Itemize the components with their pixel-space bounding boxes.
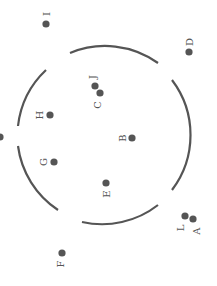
point-marker xyxy=(0,133,4,140)
point-marker xyxy=(128,134,135,141)
point-label: H xyxy=(34,110,45,119)
point-label: I xyxy=(41,12,52,16)
point-marker xyxy=(58,249,65,256)
point-label: D xyxy=(184,38,195,46)
point-label: G xyxy=(38,158,49,166)
point-F: F xyxy=(55,249,66,267)
point-label: L xyxy=(175,224,186,231)
point-marker xyxy=(102,179,109,186)
circle-arc-lower-left xyxy=(18,146,58,210)
point-A: A xyxy=(189,215,201,235)
point-circle-diagram: ABCDEFGHIJL xyxy=(0,0,217,286)
point-marker xyxy=(42,20,49,27)
point-label: F xyxy=(55,260,66,267)
point-label: B xyxy=(117,134,128,141)
point-marker xyxy=(189,215,196,222)
labeled-points: ABCDEFGHIJL xyxy=(0,12,202,268)
point-C: C xyxy=(92,89,104,108)
point-marker xyxy=(46,111,53,118)
point-marker xyxy=(50,158,57,165)
point-E: E xyxy=(101,179,112,197)
point-J: J xyxy=(87,75,99,90)
point-G: G xyxy=(38,158,58,166)
point-D: D xyxy=(184,38,195,56)
circle-arc-top xyxy=(70,46,158,63)
point-B: B xyxy=(117,134,136,141)
point-label: J xyxy=(87,75,98,80)
point-unlabeled xyxy=(0,133,4,140)
point-I: I xyxy=(41,12,52,28)
circle-arc-bottom xyxy=(82,205,158,224)
point-marker xyxy=(185,48,192,55)
point-marker xyxy=(181,212,188,219)
circle-arc-right xyxy=(172,80,191,190)
point-marker xyxy=(91,82,98,89)
point-label: E xyxy=(101,190,112,197)
point-label: A xyxy=(191,227,202,236)
point-L: L xyxy=(175,212,189,231)
point-label: C xyxy=(92,101,103,109)
point-H: H xyxy=(34,110,54,119)
point-marker xyxy=(96,89,103,96)
